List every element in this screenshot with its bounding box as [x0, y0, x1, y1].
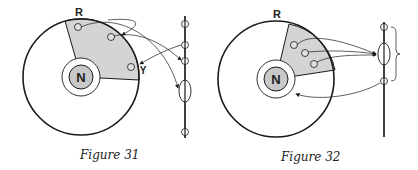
arrow-path [296, 83, 380, 97]
particle-circle [75, 24, 82, 31]
particle-circle [108, 34, 115, 41]
outer-label-r: R [273, 8, 281, 20]
figure-31-caption: Figure 31 [80, 148, 140, 162]
diagram-canvas: N R Y N R [0, 0, 418, 170]
figure-31: N R Y [23, 6, 191, 138]
particle-circle [128, 64, 135, 71]
figure-32: N R [218, 8, 400, 137]
grouping-brace [391, 27, 400, 81]
outer-label-r: R [75, 6, 83, 18]
particle-circle [291, 42, 298, 49]
particle-circle [311, 61, 318, 68]
figure-32-caption: Figure 32 [281, 150, 341, 164]
nucleus-label: N [76, 70, 85, 85]
nucleus-label: N [271, 72, 280, 87]
particle-circle [302, 50, 309, 57]
marker-label-y: Y [140, 65, 147, 76]
